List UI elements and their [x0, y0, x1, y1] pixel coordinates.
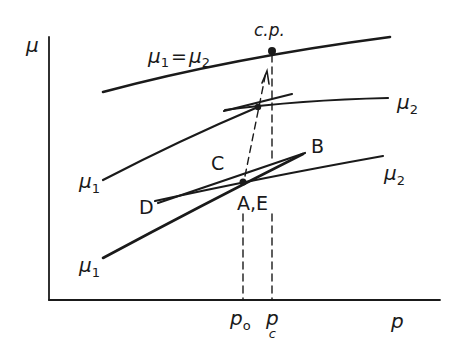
path-dashed-arrow	[245, 72, 266, 176]
point-AE-label: A,E	[237, 192, 268, 214]
critical-point-marker	[268, 47, 276, 55]
point-B-label: B	[311, 135, 324, 157]
coexistence-curve	[103, 37, 390, 92]
upper-mu1-label: μ1	[78, 169, 100, 196]
point-D-label: D	[139, 196, 154, 218]
lower-mu2-label: μ2	[383, 161, 405, 188]
upper-mu2-label: μ2	[396, 90, 418, 117]
tangent-line-DB	[158, 153, 305, 203]
p0-tick-label: po	[229, 306, 251, 333]
critical-point-label: c.p.	[254, 20, 285, 40]
lower-mu1-label: μ1	[78, 253, 100, 280]
pc-tick-label: pc	[265, 306, 279, 341]
y-axis-label: μ	[25, 33, 39, 57]
point-C-label: C	[211, 152, 224, 174]
point-A-marker	[240, 179, 247, 186]
phase-diagram: μ p μ1=μ2 c.p. μ2 μ1 μ2 μ1 B C D A,E po	[0, 0, 462, 353]
upper-intersection-marker	[255, 104, 261, 110]
x-axis-label: p	[390, 309, 404, 333]
coexistence-curve-label: μ1=μ2	[147, 44, 210, 70]
upper-mu1-curve	[103, 107, 258, 180]
lower-mu1-curve	[103, 154, 303, 258]
lower-mu2-curve	[155, 156, 383, 201]
